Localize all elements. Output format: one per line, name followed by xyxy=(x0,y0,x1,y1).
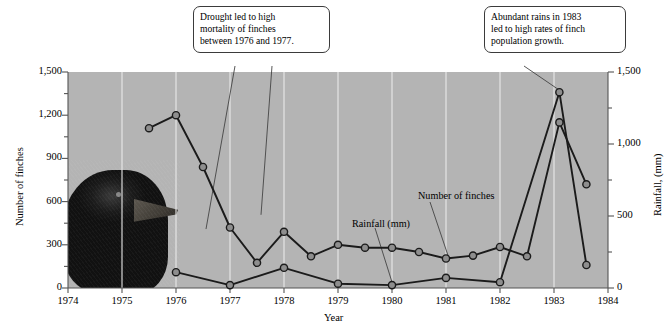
data-point xyxy=(280,264,287,271)
data-point xyxy=(523,253,530,260)
data-point xyxy=(469,252,476,259)
data-point xyxy=(199,163,206,170)
y-axis-left-tick-label: 0 xyxy=(18,281,62,292)
x-axis-tick-label: 1975 xyxy=(106,295,138,306)
data-point xyxy=(583,261,590,268)
y-axis-right-tick-label: 1,000 xyxy=(617,137,641,148)
x-axis-tick-label: 1984 xyxy=(592,295,624,306)
series-lines xyxy=(149,92,586,285)
rains-callout: Abundant rains in 1983 led to high rates… xyxy=(484,6,626,53)
x-axis-tick-label: 1977 xyxy=(214,295,246,306)
data-point xyxy=(583,181,590,188)
data-point xyxy=(388,282,395,289)
data-point xyxy=(334,241,341,248)
data-point xyxy=(172,269,179,276)
data-point xyxy=(388,244,395,251)
x-axis-tick-label: 1979 xyxy=(322,295,354,306)
data-point xyxy=(556,119,563,126)
drought-callout-line-3: between 1976 and 1977. xyxy=(200,35,323,47)
data-point xyxy=(361,244,368,251)
y-axis-left-tick-label: 1,500 xyxy=(18,65,62,76)
drought-callout-line-1: Drought led to high xyxy=(200,11,323,23)
x-axis-tick-label: 1983 xyxy=(538,295,570,306)
data-point xyxy=(253,259,260,266)
data-point xyxy=(280,228,287,235)
data-point xyxy=(496,243,503,250)
y-axis-left-tick-label: 300 xyxy=(18,238,62,249)
rainfall-series-label: Rainfall (mm) xyxy=(352,218,410,229)
data-point xyxy=(226,282,233,289)
rainfall-label-leader xyxy=(375,228,392,282)
x-axis-title: Year xyxy=(324,312,343,323)
rains-callout-line-3: population growth. xyxy=(491,35,619,47)
data-point xyxy=(442,274,449,281)
data-point xyxy=(556,89,563,96)
drought-callout: Drought led to high mortality of finches… xyxy=(193,6,330,53)
x-axis-tick-label: 1976 xyxy=(160,295,192,306)
y-axis-left-title: Number of finches xyxy=(14,147,25,226)
y-axis-right-tick-label: 500 xyxy=(617,209,633,220)
drought-leader-b xyxy=(261,66,272,215)
data-point xyxy=(334,280,341,287)
data-point xyxy=(307,253,314,260)
rains-callout-line-1: Abundant rains in 1983 xyxy=(491,11,619,23)
data-point xyxy=(442,255,449,262)
data-point xyxy=(226,224,233,231)
rains-callout-line-2: led to high rates of finch xyxy=(491,23,619,35)
gridlines xyxy=(122,72,554,288)
y-axis-right-tick-label: 0 xyxy=(617,281,622,292)
data-point xyxy=(145,125,152,132)
x-axis-tick-label: 1981 xyxy=(430,295,462,306)
data-point xyxy=(496,279,503,286)
series-line-0 xyxy=(149,115,586,263)
data-point xyxy=(415,248,422,255)
x-axis-tick-label: 1982 xyxy=(484,295,516,306)
finch-rainfall-figure: 03006009001,2001,50005001,0001,500197419… xyxy=(0,0,670,330)
y-axis-right-title: Rainfall, (mm) xyxy=(652,154,663,216)
data-point xyxy=(172,112,179,119)
x-axis-tick-label: 1980 xyxy=(376,295,408,306)
y-axis-right-tick-label: 1,500 xyxy=(617,65,641,76)
y-axis-left-tick-label: 1,200 xyxy=(18,108,62,119)
x-axis-tick-label: 1978 xyxy=(268,295,300,306)
drought-callout-line-2: mortality of finches xyxy=(200,23,323,35)
finches-series-label: Number of finches xyxy=(418,190,494,201)
finches-label-leader xyxy=(430,202,448,255)
x-axis-tick-label: 1974 xyxy=(52,295,84,306)
